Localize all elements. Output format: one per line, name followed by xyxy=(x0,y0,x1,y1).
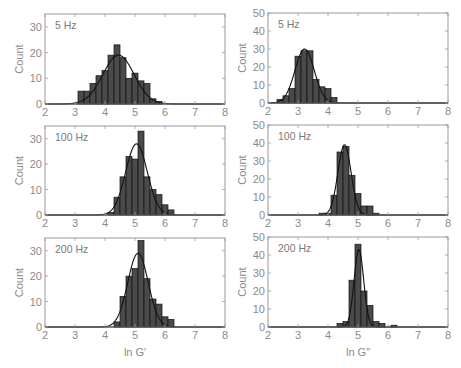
x-tick-label: 3 xyxy=(295,105,301,117)
histogram-bar xyxy=(96,76,102,104)
x-tick-label: 8 xyxy=(222,106,228,118)
x-tick-label: 5 xyxy=(355,105,361,117)
x-tick-label: 5 xyxy=(132,217,138,229)
y-tick-label: 40 xyxy=(253,25,265,37)
y-axis-label: Count xyxy=(236,155,248,184)
histogram-bar xyxy=(355,244,361,327)
x-tick-label: 8 xyxy=(445,329,451,341)
x-tick-label: 6 xyxy=(162,329,168,341)
y-tick-label: 20 xyxy=(253,61,265,73)
x-tick-label: 5 xyxy=(355,217,361,229)
histogram-bar xyxy=(144,83,150,104)
y-tick-label: 10 xyxy=(253,191,265,203)
x-tick-label: 5 xyxy=(355,329,361,341)
x-tick-label: 6 xyxy=(385,105,391,117)
y-tick-label: 0 xyxy=(36,98,42,110)
histogram-bar xyxy=(301,51,307,103)
panel-middle-right: 234567801020304050Count100 Hz xyxy=(236,119,451,229)
y-tick-label: 30 xyxy=(253,155,265,167)
y-axis-label: Count xyxy=(236,267,248,296)
histogram-bar xyxy=(102,71,108,104)
histogram-bar xyxy=(114,45,120,104)
x-tick-label: 3 xyxy=(72,217,78,229)
histogram-bar xyxy=(114,322,120,327)
x-tick-label: 3 xyxy=(295,217,301,229)
histogram-bar xyxy=(126,78,132,104)
x-tick-label: 7 xyxy=(192,217,198,229)
x-tick-label: 6 xyxy=(385,329,391,341)
x-tick-label: 3 xyxy=(72,329,78,341)
panel-top-right: 234567801020304050Count5 Hz xyxy=(236,7,451,117)
x-tick-label: 2 xyxy=(42,106,48,118)
y-tick-label: 30 xyxy=(30,133,42,145)
x-tick-label: 2 xyxy=(42,217,48,229)
histogram-bar xyxy=(289,89,295,103)
y-tick-label: 30 xyxy=(30,21,42,33)
x-tick-label: 8 xyxy=(222,217,228,229)
y-tick-label: 0 xyxy=(259,97,265,109)
histogram-bar xyxy=(295,56,301,103)
y-tick-label: 10 xyxy=(30,296,42,308)
y-tick-label: 50 xyxy=(253,231,265,243)
histogram-bar xyxy=(132,159,138,215)
y-tick-label: 30 xyxy=(253,267,265,279)
histogram-bars xyxy=(337,244,397,327)
x-tick-label: 5 xyxy=(132,329,138,341)
histogram-bar xyxy=(355,193,361,215)
frequency-label: 200 Hz xyxy=(55,243,88,255)
x-tick-label: 2 xyxy=(265,329,271,341)
x-axis-label: ln G″ xyxy=(346,346,370,358)
y-tick-label: 30 xyxy=(253,43,265,55)
y-tick-label: 20 xyxy=(253,285,265,297)
x-tick-label: 8 xyxy=(445,217,451,229)
y-tick-label: 0 xyxy=(259,209,265,221)
x-tick-label: 2 xyxy=(42,329,48,341)
y-tick-label: 10 xyxy=(253,303,265,315)
histogram-bar xyxy=(367,206,373,215)
y-tick-label: 20 xyxy=(30,158,42,170)
y-tick-label: 10 xyxy=(253,79,265,91)
histogram-bar xyxy=(138,81,144,104)
x-tick-label: 8 xyxy=(445,105,451,117)
x-tick-label: 7 xyxy=(192,329,198,341)
x-tick-label: 4 xyxy=(325,329,331,341)
x-tick-label: 6 xyxy=(162,106,168,118)
histogram-bar xyxy=(307,51,313,103)
y-axis-label: Count xyxy=(236,43,248,72)
y-tick-label: 20 xyxy=(30,270,42,282)
x-tick-label: 7 xyxy=(415,105,421,117)
panel-bottom-right: 234567801020304050Count200 Hzln G″ xyxy=(236,231,451,358)
histogram-bar xyxy=(361,291,367,327)
histogram-bar xyxy=(156,304,162,327)
histogram-bar xyxy=(120,58,126,104)
histogram-bar xyxy=(132,269,138,327)
y-axis-label: Count xyxy=(13,156,25,185)
x-tick-label: 4 xyxy=(102,329,108,341)
x-tick-label: 4 xyxy=(102,217,108,229)
x-axis-label: ln G′ xyxy=(124,346,146,358)
y-axis-label: Count xyxy=(13,268,25,297)
y-tick-label: 0 xyxy=(259,321,265,333)
panel-middle-left: 23456780102030Count100 Hz xyxy=(13,126,228,229)
y-tick-label: 0 xyxy=(36,209,42,221)
x-tick-label: 3 xyxy=(295,329,301,341)
x-tick-label: 2 xyxy=(265,217,271,229)
y-tick-label: 40 xyxy=(253,137,265,149)
y-tick-label: 50 xyxy=(253,119,265,131)
panel-bottom-left: 23456780102030Count200 Hzln G′ xyxy=(13,238,228,358)
histogram-bars xyxy=(108,131,174,215)
histogram-figure: 23456780102030Count5 Hz 2345678010203040… xyxy=(0,0,461,368)
y-tick-label: 20 xyxy=(253,173,265,185)
x-tick-label: 4 xyxy=(325,105,331,117)
x-tick-label: 7 xyxy=(192,106,198,118)
y-tick-label: 30 xyxy=(30,245,42,257)
x-tick-label: 4 xyxy=(102,106,108,118)
x-tick-label: 8 xyxy=(222,329,228,341)
x-tick-label: 5 xyxy=(132,106,138,118)
histogram-bar xyxy=(132,73,138,104)
frequency-label: 5 Hz xyxy=(278,18,300,30)
y-tick-label: 10 xyxy=(30,72,42,84)
frequency-label: 100 Hz xyxy=(55,131,88,143)
frequency-label: 100 Hz xyxy=(278,130,311,142)
x-tick-label: 3 xyxy=(72,106,78,118)
